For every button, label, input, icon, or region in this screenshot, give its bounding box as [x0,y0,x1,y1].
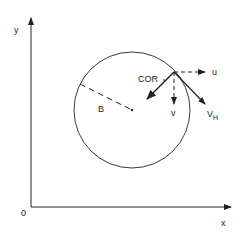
radius-line [80,84,132,110]
origin-label: 0 [21,208,26,218]
vh-label: VH [207,109,218,121]
radius-label: B [98,104,104,114]
y-axis-label: y [14,25,19,35]
center-point [131,109,133,111]
x-axis-label: x [221,218,226,228]
cor-label: COR [138,74,159,84]
u-label: u [212,67,217,77]
v-label: v [171,108,176,118]
velocity-diagram: y x 0 B COR u v VH [0,0,243,238]
vh-label-subscript: H [213,114,218,121]
vh-vector [174,72,205,104]
